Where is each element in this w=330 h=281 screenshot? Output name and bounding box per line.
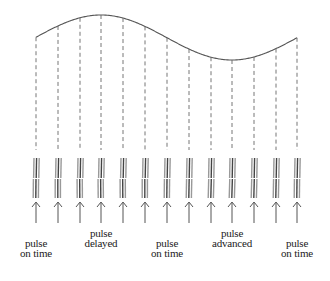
pulse-stroke xyxy=(211,179,212,198)
pulse-stroke xyxy=(256,179,257,198)
pulse-stroke xyxy=(234,179,235,198)
pulse-stroke xyxy=(251,179,252,198)
pulse-stroke xyxy=(254,179,255,198)
waveform-curve xyxy=(36,15,297,60)
label-pulse-on-time-3: pulse on time xyxy=(267,238,327,258)
label-pulse-on-time-2: pulse on time xyxy=(137,238,197,258)
pulse-stroke xyxy=(232,179,233,198)
pulse-stroke xyxy=(213,179,214,198)
pulse-timing-diagram: pulse on time pulse delayed pulse on tim… xyxy=(0,0,330,281)
label-pulse-advanced: pulse advanced xyxy=(202,228,262,248)
pulse-stroke xyxy=(208,179,209,198)
label-pulse-on-time-1: pulse on time xyxy=(6,238,66,258)
label-pulse-delayed: pulse delayed xyxy=(71,228,131,248)
pulse-stroke xyxy=(229,179,230,198)
